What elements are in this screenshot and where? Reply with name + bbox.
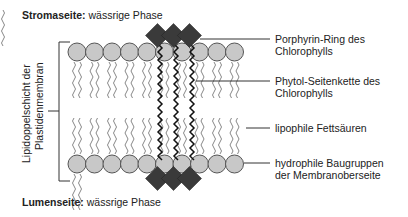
label-phytol: Phytol-Seitenkette des Chlorophylls (275, 75, 380, 99)
label-hydrophilic: hydrophile Baugruppen der Membranobersei… (275, 157, 384, 181)
bilayer-label: Lipidoppelschicht der Plastidenmembran (2, 40, 46, 180)
lumen-side-label: Lumenseite: wässrige Phase (22, 196, 161, 208)
label-lipophilic: lipophile Fettsäuren (275, 122, 367, 134)
porphyrin-rings-top (145, 23, 201, 47)
bilayer-label-line2: Plastidenmembran (33, 62, 45, 150)
stroma-side-label: Stromaseite: wässrige Phase (22, 9, 163, 21)
stroma-side-title: Stromaseite: (22, 9, 86, 21)
lumen-side-title: Lumenseite: (22, 196, 84, 208)
lumen-side-phase: wässrige Phase (84, 196, 161, 208)
bilayer-label-line1: Lipidoppelschicht der (20, 64, 32, 163)
bilayer-bracket (48, 42, 70, 181)
porphyrin-rings-bottom (145, 166, 201, 190)
stroma-side-phase: wässrige Phase (86, 9, 163, 21)
label-porphyrin: Porphyrin-Ring des Chlorophylls (275, 33, 365, 57)
